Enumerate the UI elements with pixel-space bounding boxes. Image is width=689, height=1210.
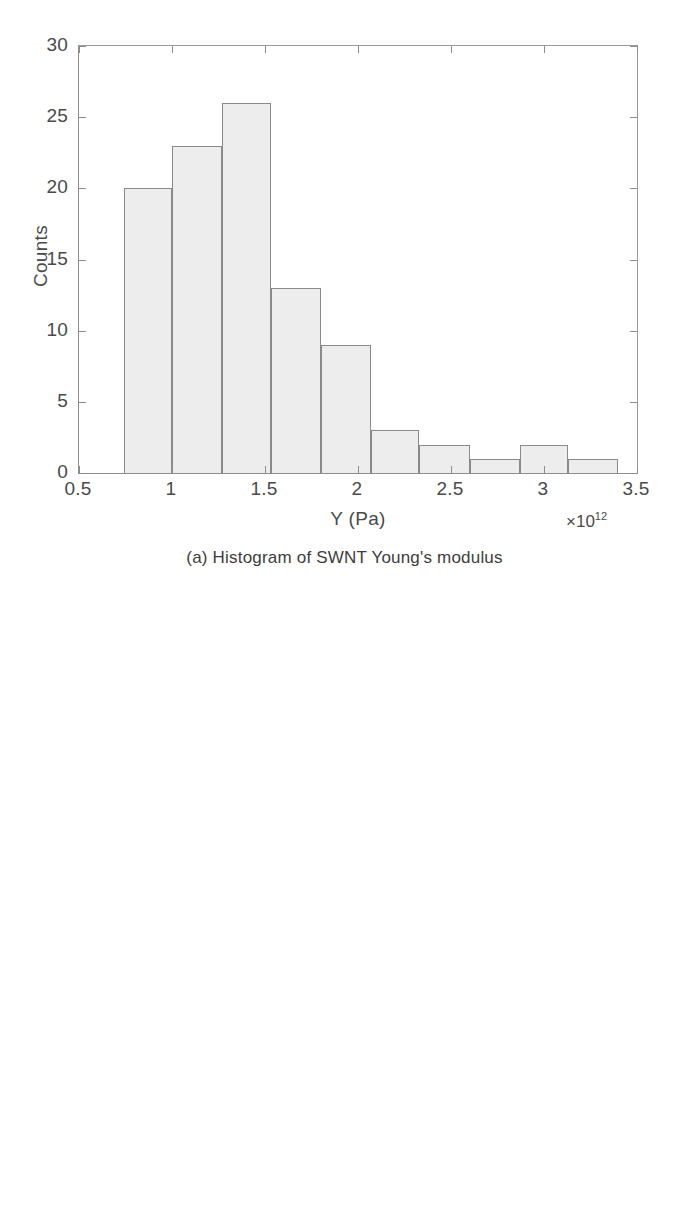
y-axis-tick — [79, 331, 86, 332]
x-tick-label: 2.5 — [436, 478, 463, 500]
x-axis-tick — [79, 466, 80, 473]
x-tick-label: 2 — [352, 478, 363, 500]
subcaption-a: (a) Histogram of SWNT Young's modulus — [0, 548, 689, 568]
x-axis-tick — [637, 466, 638, 473]
y-axis-tick — [630, 473, 637, 474]
x-axis-title-a: Y (Pa) — [78, 508, 638, 530]
y-axis-tick — [79, 473, 86, 474]
x-axis-tick — [451, 46, 452, 53]
multiplier-prefix-a: ×10 — [566, 512, 595, 531]
y-axis-tick — [630, 188, 637, 189]
x-tick-label: 3.5 — [622, 478, 649, 500]
y-tick-label: 5 — [57, 390, 68, 412]
y-axis-tick — [630, 117, 637, 118]
histogram-bar — [271, 288, 321, 473]
y-axis-tick — [79, 46, 86, 47]
y-axis-tick — [79, 260, 86, 261]
histogram-bar — [321, 345, 371, 473]
histogram-bar — [470, 459, 520, 473]
x-axis-tick — [358, 46, 359, 53]
y-axis-tick — [630, 402, 637, 403]
x-axis-tick — [172, 466, 173, 473]
y-tick-label: 25 — [46, 105, 68, 127]
page-footer-fragment — [0, 1192, 689, 1210]
x-axis-tick — [544, 46, 545, 53]
histogram-bar — [568, 459, 618, 473]
x-axis-tick — [172, 46, 173, 53]
histogram-bar — [172, 146, 222, 473]
histogram-bar — [371, 430, 419, 473]
histogram-bar — [222, 103, 270, 473]
figure-page: 051015202530 0.511.522.533.5 Counts Y (P… — [0, 0, 689, 1210]
y-axis-tick — [79, 188, 86, 189]
x-tick-label: 3 — [538, 478, 549, 500]
y-axis-tick — [630, 46, 637, 47]
y-axis-tick — [79, 402, 86, 403]
x-axis-tick — [358, 466, 359, 473]
y-axis-tick — [630, 260, 637, 261]
x-axis-tick — [451, 466, 452, 473]
histogram-bar — [124, 188, 172, 473]
chart-panel-b: 0510152025 45678910 Counts Y (Pa) ×1011 … — [0, 595, 689, 1195]
y-axis-tick — [630, 331, 637, 332]
x-axis-multiplier-a: ×1012 — [566, 512, 607, 532]
chart-panel-a: 051015202530 0.511.522.533.5 Counts Y (P… — [0, 0, 689, 580]
x-axis-tick — [265, 466, 266, 473]
x-axis-tick — [79, 46, 80, 53]
y-axis-tick — [79, 117, 86, 118]
plot-area-a — [78, 45, 638, 474]
x-tick-labels-a: 0.511.522.533.5 — [78, 478, 638, 504]
histogram-bars-a — [79, 46, 637, 473]
x-axis-tick — [544, 466, 545, 473]
x-tick-label: 1.5 — [250, 478, 277, 500]
x-axis-tick — [265, 46, 266, 53]
y-axis-title-a: Counts — [30, 201, 52, 311]
x-tick-label: 1 — [166, 478, 177, 500]
x-tick-label: 0.5 — [64, 478, 91, 500]
y-tick-label: 20 — [46, 176, 68, 198]
y-tick-label: 10 — [46, 319, 68, 341]
multiplier-exponent-a: 12 — [595, 510, 607, 522]
histogram-bar — [419, 445, 469, 473]
x-axis-tick — [637, 46, 638, 53]
y-tick-label: 30 — [46, 34, 68, 56]
